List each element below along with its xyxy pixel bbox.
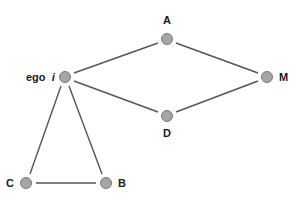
label-ego-text: ego — [26, 71, 46, 83]
node-c — [21, 178, 32, 189]
label-b: B — [118, 177, 126, 189]
nodes — [21, 34, 273, 189]
edge-d-m — [176, 81, 258, 112]
edge-ego-a — [74, 43, 158, 73]
node-d — [162, 111, 173, 122]
node-ego — [60, 72, 71, 83]
label-a: A — [163, 14, 171, 26]
label-ego: ego i — [26, 71, 56, 83]
edge-ego-b — [69, 86, 102, 174]
edge-ego-d — [74, 81, 158, 112]
label-ego-suffix: i — [52, 71, 56, 83]
node-b — [101, 178, 112, 189]
label-d: D — [163, 127, 171, 139]
node-m — [262, 72, 273, 83]
labels: ego i A M D C B — [6, 14, 288, 189]
edges — [30, 43, 258, 183]
label-m: M — [279, 71, 288, 83]
node-a — [162, 34, 173, 45]
label-c: C — [6, 177, 14, 189]
edge-a-m — [176, 43, 258, 73]
edge-ego-c — [30, 86, 61, 174]
network-diagram: ego i A M D C B — [0, 0, 306, 205]
